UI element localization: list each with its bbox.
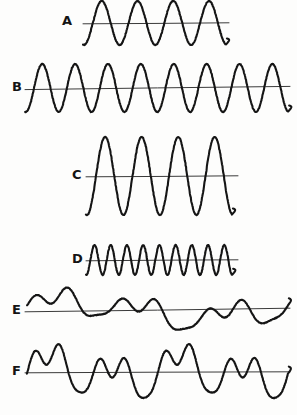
waveform-canvas xyxy=(0,0,297,415)
wave-label-a: A xyxy=(62,14,72,27)
waveform-figure: ABCDEF xyxy=(0,0,297,415)
axis-line-a xyxy=(83,23,229,24)
wave-label-d: D xyxy=(72,252,83,265)
axis-line-c xyxy=(86,176,238,177)
wave-label-b: B xyxy=(12,80,22,93)
wave-label-c: C xyxy=(72,168,82,181)
axis-lines-group xyxy=(25,23,290,373)
wave-label-f: F xyxy=(12,364,21,377)
axis-line-b xyxy=(25,86,290,89)
axis-line-d xyxy=(86,260,238,261)
wave-label-e: E xyxy=(12,303,21,316)
wave-paths-group xyxy=(25,1,291,398)
wave-path-f xyxy=(27,344,291,398)
